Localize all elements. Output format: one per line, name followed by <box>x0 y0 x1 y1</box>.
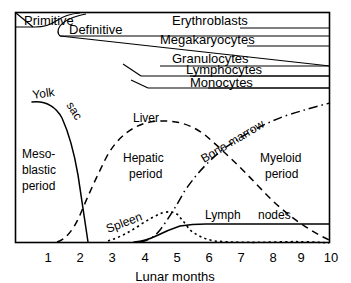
curve-label-yolk-sac: Yolk sac <box>31 85 85 123</box>
hematopoiesis-figure: Primitive Definitive Erythroblasts Megak… <box>0 0 351 283</box>
x-tick-7: 7 <box>237 250 244 265</box>
curve-label-spleen: Spleen <box>104 209 144 235</box>
period-label-mesoblastic-line3: period <box>22 179 55 193</box>
curve-label-yolk-sac-part1: Yolk <box>31 85 56 102</box>
x-tick-8: 8 <box>269 250 276 265</box>
period-label-myeloid-line2: period <box>265 167 298 181</box>
period-label-myeloid-line1: Myeloid <box>260 151 301 165</box>
x-axis-title: Lunar months <box>135 269 215 283</box>
x-tick-6: 6 <box>205 250 212 265</box>
period-label-hepatic-line1: Hepatic <box>123 151 164 165</box>
x-tick-4: 4 <box>141 250 148 265</box>
x-tick-2: 2 <box>76 250 83 265</box>
cell-label-erythroblasts: Erythroblasts <box>172 13 248 28</box>
curve-label-bone-marrow: Bone marrow <box>198 117 267 166</box>
x-axis-ticks: 1 2 3 4 5 6 7 8 9 10 <box>44 250 338 265</box>
x-tick-9: 9 <box>297 250 304 265</box>
lineage-label-primitive: Primitive <box>24 13 74 28</box>
period-label-mesoblastic-line1: Meso- <box>22 147 55 161</box>
lymphocytes-leader <box>123 64 141 76</box>
figure-svg: Primitive Definitive Erythroblasts Megak… <box>0 0 351 283</box>
period-label-mesoblastic-line2: blastic <box>22 163 56 177</box>
cell-label-monocytes: Monocytes <box>190 75 253 90</box>
x-tick-1: 1 <box>44 250 51 265</box>
x-tick-10: 10 <box>324 250 338 265</box>
curve-label-lymph-nodes-part1: Lymph <box>205 208 241 222</box>
x-tick-5: 5 <box>173 250 180 265</box>
curve-label-yolk-sac-part2: sac <box>63 99 85 122</box>
x-tick-3: 3 <box>108 250 115 265</box>
curve-lymph-nodes <box>134 224 329 242</box>
monocytes-leader <box>131 80 148 88</box>
period-label-hepatic-line2: period <box>129 167 162 181</box>
curve-label-lymph-nodes-part2: nodes <box>258 208 291 222</box>
cell-label-megakaryocytes: Megakaryocytes <box>160 32 255 47</box>
lineage-label-definitive: Definitive <box>69 22 122 37</box>
curve-label-liver: Liver <box>133 111 159 125</box>
